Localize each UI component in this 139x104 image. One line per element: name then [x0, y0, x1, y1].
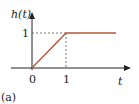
origin-label: 0 [29, 74, 36, 85]
x-axis-label: t [118, 76, 122, 87]
figure-caption: (a) [1, 92, 16, 103]
ramp-curve [32, 33, 116, 68]
y-axis-label: h(t) [11, 9, 31, 20]
y-tick-label: 1 [22, 28, 29, 39]
x-axis-arrow-icon [124, 65, 131, 71]
x-tick-label: 1 [63, 74, 70, 85]
